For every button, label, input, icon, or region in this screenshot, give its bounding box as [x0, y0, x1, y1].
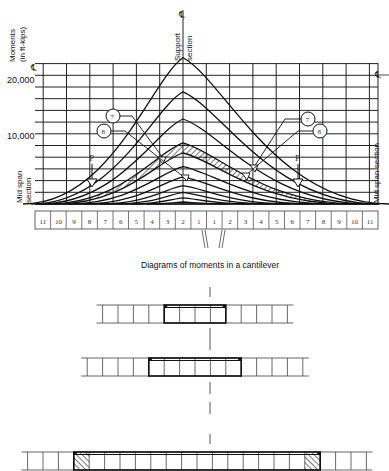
support-label-line2: section — [185, 36, 194, 61]
segment-label: 4 — [259, 218, 263, 226]
segment-label: 1 — [197, 218, 201, 226]
y-tick-20000: 20,000 — [7, 75, 35, 85]
segment-label: 1 — [213, 218, 217, 226]
segment-label: 9 — [72, 218, 76, 226]
cantilever-diagrams — [22, 287, 373, 470]
moment-diagram-figure: Moments (in ft-kips) 20,000 10,000 ℄ ℄ ℄… — [0, 0, 389, 471]
segment-label: 5 — [135, 218, 139, 226]
cantilever-diagram-1 — [97, 287, 294, 323]
y-axis-title: Moments (in ft-kips) — [8, 27, 27, 62]
segment-label: 11 — [367, 218, 374, 226]
support-legs — [202, 230, 225, 248]
segment-label: 8 — [322, 218, 326, 226]
y-axis-label-line2: (in ft-kips) — [18, 27, 27, 62]
segment-strip: 11109876543211234567891011 — [35, 211, 378, 229]
moment-curve — [31, 92, 380, 204]
segment-label: 5 — [275, 218, 279, 226]
mid-span-right: Mid span section — [372, 143, 381, 203]
svg-text:7: 7 — [306, 116, 310, 124]
segment-label: 4 — [150, 218, 154, 226]
load-label-right: P — [295, 153, 300, 163]
support-label-line1: Support — [173, 32, 182, 61]
svg-text:7: 7 — [111, 113, 115, 121]
segment-label: 7 — [103, 218, 107, 226]
segment-label: 11 — [39, 218, 46, 226]
centerline-symbol-left: ℄ — [30, 63, 37, 73]
segment-label: 3 — [244, 218, 248, 226]
segment-label: 9 — [337, 218, 341, 226]
load-arrow-left: P — [87, 153, 97, 187]
subtitle: Diagrams of moments in a cantilever — [141, 260, 279, 270]
segment-label: 3 — [166, 218, 170, 226]
segment-label: 10 — [55, 218, 63, 226]
segment-label: 6 — [291, 218, 295, 226]
cantilever-diagram-3 — [22, 434, 373, 470]
y-axis-label-line1: Moments — [8, 29, 17, 62]
y-tick-10000: 10,000 — [7, 131, 35, 141]
centerline-symbol-top: ℄ — [178, 10, 185, 20]
segment-label: 8 — [88, 218, 92, 226]
mid-span-left-line1: Mid span — [15, 171, 24, 203]
mid-span-left-line2: section — [24, 178, 33, 203]
cantilever-diagram-2 — [81, 340, 309, 376]
load-label-left: P — [89, 153, 94, 163]
segment-label: 7 — [306, 218, 310, 226]
segment-label: 2 — [228, 218, 232, 226]
segment-label: 6 — [119, 218, 123, 226]
segment-label: 10 — [351, 218, 359, 226]
svg-text:8: 8 — [102, 128, 106, 136]
svg-text:8: 8 — [318, 128, 322, 136]
segment-label: 2 — [181, 218, 185, 226]
